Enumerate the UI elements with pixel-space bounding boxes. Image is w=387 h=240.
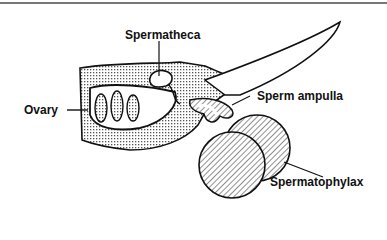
ovipositor [205, 22, 340, 95]
label-spermatophylax: Spermatophylax [270, 175, 363, 189]
leader-sperm-ampulla [232, 96, 250, 105]
label-ovary: Ovary [24, 103, 58, 117]
label-sperm-ampulla: Sperm ampulla [257, 89, 343, 103]
spermatophylax-front [199, 132, 265, 198]
label-spermatheca: Spermatheca [125, 28, 200, 42]
